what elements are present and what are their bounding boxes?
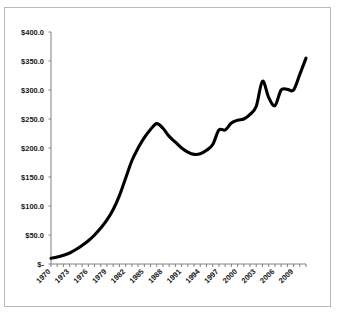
y-axis-tick-label: $50.0 <box>25 231 44 240</box>
x-axis-tick-label: 1997 <box>202 267 220 285</box>
y-axis-tick-label: $150.0 <box>21 173 44 182</box>
line-chart: $400.0$350.0$300.0$250.0$200.0$150.0$100… <box>0 0 340 315</box>
x-axis-tick-label: 1994 <box>184 266 203 285</box>
x-axis-tick-label: 1991 <box>165 267 183 285</box>
x-axis-line-group <box>51 264 306 267</box>
y-axis-tick-label: $300.0 <box>21 86 44 95</box>
x-axis-tick-label: 1979 <box>90 267 108 285</box>
y-axis-tick-labels: $400.0$350.0$300.0$250.0$200.0$150.0$100… <box>21 28 44 269</box>
y-axis-tick-label: $200.0 <box>21 144 44 153</box>
x-axis-tick-label: 1982 <box>109 267 127 285</box>
y-axis-tick-label: $350.0 <box>21 57 44 66</box>
y-axis-line-group <box>49 32 52 264</box>
y-axis-tick-label: $- <box>37 260 44 269</box>
x-axis-tick-label: 1970 <box>34 267 52 285</box>
x-axis-tick-labels: 1970197319761979198219851988199119941997… <box>34 266 295 285</box>
y-axis-tick-label: $250.0 <box>21 115 44 124</box>
y-axis-tick-label: $400.0 <box>21 28 44 37</box>
x-axis-tick-label: 2009 <box>277 267 295 285</box>
y-axis-tick-label: $100.0 <box>21 202 44 211</box>
x-axis-tick-label: 2000 <box>221 267 239 285</box>
x-axis-tick-label: 1988 <box>146 267 164 285</box>
data-series-line <box>51 58 306 258</box>
x-axis-tick-label: 1985 <box>128 267 146 285</box>
x-axis-tick-label: 2003 <box>240 267 258 285</box>
x-axis-tick-label: 1973 <box>53 267 71 285</box>
x-axis-tick-label: 2006 <box>258 267 276 285</box>
x-axis-tick-label: 1976 <box>72 267 90 285</box>
